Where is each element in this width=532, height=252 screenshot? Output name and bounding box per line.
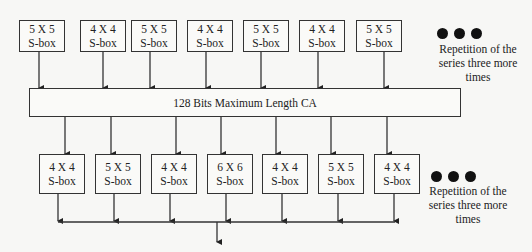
bottom-sbox-1: 4 X 4 S-box [39,154,85,194]
sbox-size: 6 X 6 [217,160,243,174]
sbox-size: 4 X 4 [49,160,75,174]
sbox-size: 5 X 5 [253,22,279,36]
sbox-label: S-box [28,36,55,50]
ca-block: 128 Bits Maximum Length CA [29,88,461,117]
bottom-sbox-6: 5 X 5 S-box [318,154,364,194]
bottom-sbox-4: 6 X 6 S-box [207,154,253,194]
ellipsis-dots-top [437,28,482,39]
sbox-label: S-box [104,174,131,188]
sbox-label: S-box [383,174,410,188]
sbox-label: S-box [327,174,354,188]
top-sbox-1: 5 X 5 S-box [19,20,65,52]
sbox-size: 4 X 4 [309,22,335,36]
sbox-size: 5 X 5 [366,22,392,36]
bottom-sbox-3: 4 X 4 S-box [151,154,197,194]
sbox-label: S-box [365,36,392,50]
sbox-size: 4 X 4 [197,22,223,36]
sbox-label: S-box [48,174,75,188]
top-sbox-5: 5 X 5 S-box [243,20,289,52]
top-sbox-4: 4 X 4 S-box [187,20,233,52]
sbox-label: S-box [160,174,187,188]
sbox-size: 4 X 4 [161,160,187,174]
dot-icon [437,28,448,39]
repetition-note-top: Repetition of the series three more time… [430,42,526,84]
bottom-sbox-5: 4 X 4 S-box [262,154,308,194]
sbox-size: 5 X 5 [141,22,167,36]
bottom-sbox-7: 4 X 4 S-box [374,154,420,194]
dot-icon [454,28,465,39]
top-sbox-7: 5 X 5 S-box [356,20,402,52]
sbox-label: S-box [89,36,116,50]
sbox-label: S-box [196,36,223,50]
dot-icon [448,171,459,182]
sbox-size: 5 X 5 [29,22,55,36]
sbox-size: 4 X 4 [90,22,116,36]
sbox-label: S-box [271,174,298,188]
sbox-label: S-box [140,36,167,50]
ca-label: 128 Bits Maximum Length CA [173,97,317,109]
sbox-label: S-box [216,174,243,188]
bottom-sbox-2: 5 X 5 S-box [95,154,141,194]
repetition-note-bottom: Repetition of the series three more time… [420,184,516,226]
sbox-size: 5 X 5 [105,160,131,174]
dot-icon [465,171,476,182]
sbox-size: 4 X 4 [384,160,410,174]
top-sbox-6: 4 X 4 S-box [299,20,345,52]
sbox-size: 4 X 4 [272,160,298,174]
dot-icon [471,28,482,39]
dot-icon [431,171,442,182]
sbox-label: S-box [308,36,335,50]
top-sbox-2: 4 X 4 S-box [80,20,126,52]
sbox-size: 5 X 5 [328,160,354,174]
ellipsis-dots-bottom [431,171,476,182]
sbox-label: S-box [252,36,279,50]
top-sbox-3: 5 X 5 S-box [131,20,177,52]
